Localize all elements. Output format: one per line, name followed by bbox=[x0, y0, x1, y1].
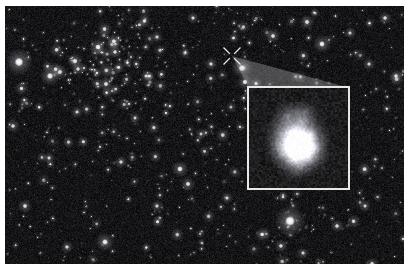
figure-container bbox=[0, 0, 415, 275]
inset-galaxy-canvas bbox=[249, 88, 348, 188]
magnified-source-inset bbox=[247, 86, 350, 190]
deep-field-image bbox=[5, 6, 404, 264]
